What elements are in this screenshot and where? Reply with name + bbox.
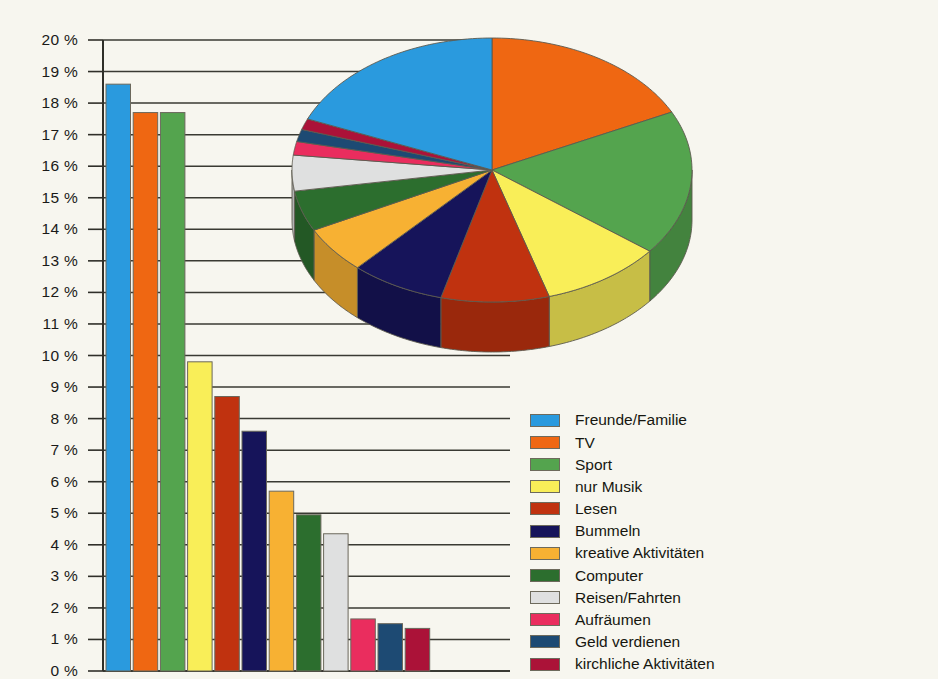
legend-item[interactable]: Geld verdienen bbox=[530, 631, 715, 653]
bar: nur Musik: 9.8 % bbox=[188, 362, 213, 671]
legend-color-swatch bbox=[530, 613, 560, 626]
legend-color-swatch bbox=[530, 547, 560, 560]
legend-item-label: Reisen/Fahrten bbox=[575, 590, 681, 606]
legend-color-swatch bbox=[530, 658, 560, 671]
legend-item[interactable]: Aufräumen bbox=[530, 609, 715, 631]
legend-item[interactable]: kirchliche Aktivitäten bbox=[530, 653, 715, 675]
legend-item[interactable]: Bummeln bbox=[530, 520, 715, 542]
y-axis-tick-label: 7 % bbox=[16, 442, 78, 458]
y-axis-tick-label: 17 % bbox=[16, 127, 78, 143]
legend-color-swatch bbox=[530, 414, 560, 427]
y-axis-tick-label: 0 % bbox=[16, 663, 78, 679]
y-axis-tick-label: 11 % bbox=[16, 316, 78, 332]
legend-item[interactable]: Sport bbox=[530, 453, 715, 475]
y-axis-tick-label: 18 % bbox=[16, 95, 78, 111]
bar: Geld verdienen: 1.5 % bbox=[378, 624, 403, 671]
bar: Sport: 17.7 % bbox=[160, 113, 185, 671]
bar: TV: 17.7 % bbox=[133, 113, 158, 671]
legend-color-swatch bbox=[530, 480, 560, 493]
legend-item[interactable]: Computer bbox=[530, 564, 715, 586]
y-axis-tick-label: 19 % bbox=[16, 64, 78, 80]
legend-item-label: kreative Aktivitäten bbox=[575, 545, 704, 561]
legend-color-swatch bbox=[530, 525, 560, 538]
y-axis-tick-label: 3 % bbox=[16, 568, 78, 584]
legend-color-swatch bbox=[530, 436, 560, 449]
legend-item-label: nur Musik bbox=[575, 479, 642, 495]
legend-item-label: kirchliche Aktivitäten bbox=[575, 656, 715, 672]
bar: Reisen/Fahrten: 4.35 % bbox=[324, 534, 349, 671]
y-axis-tick-label: 13 % bbox=[16, 253, 78, 269]
y-axis-tick-label: 9 % bbox=[16, 379, 78, 395]
legend-item[interactable]: TV bbox=[530, 431, 715, 453]
legend-item-label: Bummeln bbox=[575, 523, 640, 539]
legend-color-swatch bbox=[530, 502, 560, 515]
legend-item-label: Sport bbox=[575, 457, 612, 473]
legend-item[interactable]: Reisen/Fahrten bbox=[530, 587, 715, 609]
legend-item-label: Geld verdienen bbox=[575, 634, 680, 650]
y-axis-tick-label: 15 % bbox=[16, 190, 78, 206]
bar-series: Freunde/Familie: 18.6 %TV: 17.7 %Sport: … bbox=[0, 0, 938, 699]
chart-page: TV: 17.7 %Sport: 17.7 %nur Musik: 9.8 %L… bbox=[0, 0, 938, 699]
legend-item-label: Computer bbox=[575, 568, 643, 584]
y-axis-tick-label: 5 % bbox=[16, 505, 78, 521]
figure-caption bbox=[0, 679, 938, 699]
y-axis-tick-label: 1 % bbox=[16, 631, 78, 647]
legend-item[interactable]: Freunde/Familie bbox=[530, 409, 715, 431]
legend-color-swatch bbox=[530, 569, 560, 582]
bar: Lesen: 8.7 % bbox=[215, 397, 240, 671]
legend-item[interactable]: nur Musik bbox=[530, 476, 715, 498]
bar: Aufräumen: 1.65 % bbox=[351, 619, 376, 671]
bar: Bummeln: 7.6 % bbox=[242, 431, 267, 671]
y-axis-tick-label: 20 % bbox=[16, 32, 78, 48]
y-axis-tick-label: 12 % bbox=[16, 284, 78, 300]
y-axis-tick-label: 8 % bbox=[16, 411, 78, 427]
y-axis-tick-label: 6 % bbox=[16, 474, 78, 490]
bar: Freunde/Familie: 18.6 % bbox=[106, 84, 131, 671]
y-axis-tick-label: 10 % bbox=[16, 348, 78, 364]
legend-item[interactable]: kreative Aktivitäten bbox=[530, 542, 715, 564]
y-axis-tick-label: 16 % bbox=[16, 158, 78, 174]
bar: Computer: 4.95 % bbox=[296, 515, 321, 671]
y-axis-tick-label: 2 % bbox=[16, 600, 78, 616]
legend-item[interactable]: Lesen bbox=[530, 498, 715, 520]
legend-color-swatch bbox=[530, 591, 560, 604]
legend-item-label: Aufräumen bbox=[575, 612, 651, 628]
legend-item-label: Lesen bbox=[575, 501, 617, 517]
legend: Freunde/FamilieTVSportnur MusikLesenBumm… bbox=[530, 409, 715, 675]
legend-color-swatch bbox=[530, 458, 560, 471]
legend-item-label: Freunde/Familie bbox=[575, 412, 687, 428]
bar: kirchliche Aktivitäten: 1.35 % bbox=[405, 628, 430, 671]
plot-area: TV: 17.7 %Sport: 17.7 %nur Musik: 9.8 %L… bbox=[0, 0, 938, 699]
legend-color-swatch bbox=[530, 635, 560, 648]
y-axis-tick-label: 14 % bbox=[16, 221, 78, 237]
legend-item-label: TV bbox=[575, 435, 595, 451]
y-axis-tick-label: 4 % bbox=[16, 537, 78, 553]
bar: kreative Aktivitäten: 5.7 % bbox=[269, 491, 294, 671]
